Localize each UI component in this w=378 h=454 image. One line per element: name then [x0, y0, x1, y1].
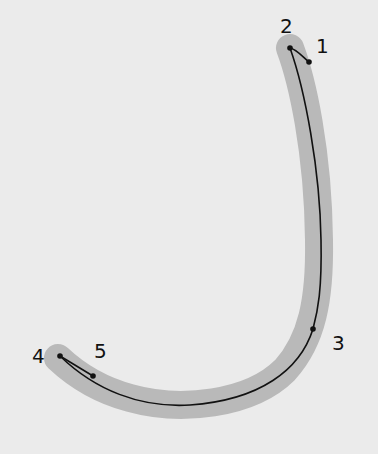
point-3 — [310, 326, 316, 332]
label-5: 5 — [94, 339, 107, 363]
label-3: 3 — [332, 331, 345, 355]
point-4 — [57, 353, 63, 359]
point-2 — [287, 45, 293, 51]
curve-diagram: 1 2 3 4 5 — [0, 0, 378, 454]
label-1: 1 — [316, 34, 329, 58]
label-4: 4 — [32, 344, 45, 368]
label-2: 2 — [280, 14, 293, 38]
point-5 — [90, 373, 96, 379]
point-1 — [306, 59, 312, 65]
